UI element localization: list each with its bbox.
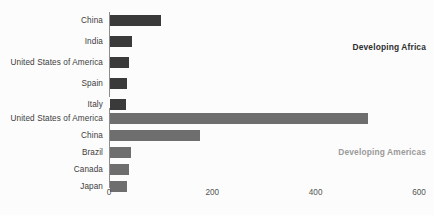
bar-row: China bbox=[0, 12, 434, 29]
bar-chart: China India United States of America Spa… bbox=[0, 0, 434, 215]
category-label: United States of America bbox=[0, 54, 103, 71]
bar-row: Canada bbox=[0, 161, 434, 178]
bar bbox=[110, 164, 129, 175]
bar bbox=[110, 57, 129, 68]
bar bbox=[110, 78, 127, 89]
x-tick-label: 400 bbox=[309, 188, 323, 197]
x-tick-label: 600 bbox=[412, 188, 426, 197]
bar bbox=[110, 130, 200, 141]
bar bbox=[110, 99, 126, 110]
x-axis: 0200400600 bbox=[0, 188, 434, 208]
bar-row: China bbox=[0, 127, 434, 144]
bar bbox=[110, 113, 368, 124]
bar bbox=[110, 36, 132, 47]
group-annotation-developing-americas: Developing Americas bbox=[338, 147, 426, 157]
bar bbox=[110, 15, 161, 26]
category-label: India bbox=[0, 33, 103, 50]
x-tick-label: 200 bbox=[205, 188, 219, 197]
category-label: China bbox=[0, 12, 103, 29]
category-label: Canada bbox=[0, 161, 103, 178]
category-label: China bbox=[0, 127, 103, 144]
bar-row: Spain bbox=[0, 75, 434, 92]
category-label: United States of America bbox=[0, 110, 103, 127]
x-tick-label: 0 bbox=[107, 188, 112, 197]
bar-row: United States of America bbox=[0, 54, 434, 71]
bar bbox=[110, 147, 131, 158]
category-label: Spain bbox=[0, 75, 103, 92]
group-annotation-developing-africa: Developing Africa bbox=[353, 42, 426, 52]
bar-row: United States of America bbox=[0, 110, 434, 127]
category-label: Brazil bbox=[0, 144, 103, 161]
plot-area: China India United States of America Spa… bbox=[0, 0, 434, 215]
